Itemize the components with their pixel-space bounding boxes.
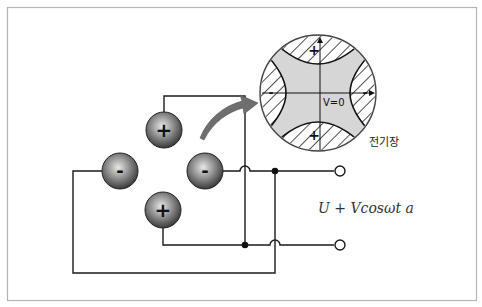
terminal-upper <box>335 166 345 176</box>
electric-field-label: 전기장 <box>369 136 399 149</box>
quadrupole-diagram: + - - + + + - - V=0 <box>0 0 482 307</box>
inset-plus-bottom: + <box>308 127 320 143</box>
wire-bottom-electrode <box>163 228 334 245</box>
magnify-arrow-icon <box>200 95 258 140</box>
inset-minus-right: - <box>363 86 368 100</box>
zero-potential-label: V=0 <box>323 97 345 108</box>
electrode-bottom: + <box>145 192 181 228</box>
inset-plus-top: + <box>308 42 320 58</box>
voltage-formula-label: U + Vcosωt a <box>318 200 414 216</box>
electrode-sign: + <box>155 198 172 222</box>
electrode-left: - <box>102 153 138 189</box>
field-inset: + + - - V=0 <box>255 30 381 156</box>
wire-right-electrode <box>223 166 334 171</box>
junction-dot-lower <box>242 242 249 249</box>
electrode-sign: - <box>116 160 123 181</box>
electrode-sign: - <box>201 160 208 181</box>
junction-dot-upper <box>272 168 279 175</box>
electrode-top: + <box>146 112 182 148</box>
inset-minus-left: - <box>269 86 274 100</box>
electrode-sign: + <box>156 118 173 142</box>
electrode-right: - <box>187 153 223 189</box>
terminal-lower <box>335 240 345 250</box>
figure-frame <box>8 8 477 301</box>
